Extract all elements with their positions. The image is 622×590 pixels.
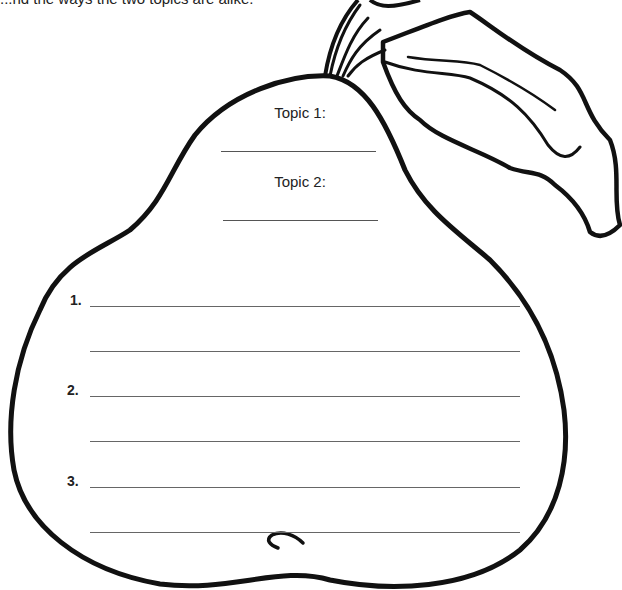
item-3-line-a[interactable] bbox=[90, 487, 520, 488]
leaf-vein bbox=[385, 62, 580, 157]
topic-2-label: Topic 2: bbox=[200, 173, 400, 190]
item-1-line-a[interactable] bbox=[90, 306, 520, 307]
leaf-outline bbox=[383, 12, 620, 236]
pear-icon bbox=[0, 0, 622, 590]
topic-1-label: Topic 1: bbox=[200, 104, 400, 121]
item-1-line-b[interactable] bbox=[90, 351, 520, 352]
item-3-number: 3. bbox=[67, 473, 79, 489]
item-2-line-a[interactable] bbox=[90, 396, 520, 397]
stem bbox=[330, 5, 385, 76]
item-3-line-b[interactable] bbox=[90, 532, 520, 533]
topic-1-line[interactable] bbox=[221, 151, 376, 152]
item-1-number: 1. bbox=[70, 292, 82, 308]
item-2-line-b[interactable] bbox=[90, 441, 520, 442]
blossom-curl bbox=[269, 533, 303, 548]
topic-2-line[interactable] bbox=[223, 220, 378, 221]
stem-outer bbox=[325, 0, 420, 76]
item-2-number: 2. bbox=[67, 382, 79, 398]
